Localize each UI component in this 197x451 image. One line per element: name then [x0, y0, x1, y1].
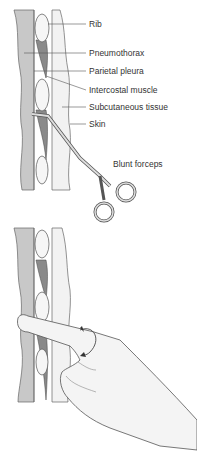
- label-pneumothorax: Pneumothorax: [89, 49, 144, 58]
- label-subcutaneous-tissue: Subcutaneous tissue: [89, 103, 168, 112]
- label-parietal-pleura: Parietal pleura: [89, 67, 144, 76]
- label-intercostal-muscle: Intercostal muscle: [89, 86, 158, 95]
- chest-wall-top: [14, 10, 86, 190]
- label-skin: Skin: [89, 120, 106, 129]
- label-blunt-forceps: Blunt forceps: [113, 160, 163, 169]
- label-rib: Rib: [89, 20, 102, 29]
